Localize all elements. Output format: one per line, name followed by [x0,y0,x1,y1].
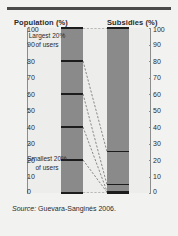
plot-area: 0102030405060708090100 01020304050607080… [27,28,151,193]
right-tick-label: 0 [153,188,157,195]
right-tick-mark [149,94,151,95]
segment-divider [107,192,129,193]
connector-line [83,160,107,192]
right-tick-label: 70 [153,74,161,81]
left-tick-mark [27,28,29,29]
top-rule [7,7,171,10]
source-note: Source: Guevara-Sanginés 2006. [12,205,116,212]
right-tick-mark [149,127,151,128]
right-tick-label: 60 [153,91,161,98]
right-tick-label: 10 [153,173,161,180]
left-tick-mark [27,94,29,95]
source-label: Source: [12,205,36,212]
left-tick-mark [27,177,29,178]
right-tick-mark [149,193,151,194]
left-tick-mark [27,78,29,79]
segment-divider [61,60,83,61]
left-tick-mark [27,127,29,128]
segment-divider [107,151,129,152]
right-tick-mark [149,144,151,145]
connector-line [83,127,107,191]
connector-line [83,94,107,185]
connector-line [83,61,107,152]
right-tick-label: 30 [153,140,161,147]
segment-divider [107,27,129,28]
left-tick-mark [27,193,29,194]
right-tick-label: 20 [153,157,161,164]
right-tick-label: 80 [153,58,161,65]
segment-divider [61,126,83,127]
source-citation: Guevara-Sanginés 2006. [38,205,116,212]
right-tick-mark [149,111,151,112]
left-tick-mark [27,111,29,112]
right-tick-mark [149,160,151,161]
right-tick-label: 90 [153,41,161,48]
right-tick-label: 50 [153,107,161,114]
right-tick-mark [149,28,151,29]
right-tick-label: 100 [153,26,165,33]
segment-divider [61,93,83,94]
figure-container: Population (%) Subsidies (%) 01020304050… [0,0,178,236]
left-tick-mark [27,144,29,145]
annotation-smallest: Smallest 20% of users [26,155,68,172]
right-axis-title: Subsidies (%) [107,18,157,27]
segment-divider [61,27,83,28]
subsidies-bar [107,28,129,193]
left-tick-mark [27,61,29,62]
right-tick-label: 40 [153,124,161,131]
segment-divider [61,192,83,193]
segment-divider [107,184,129,185]
right-tick-mark [149,61,151,62]
right-tick-mark [149,177,151,178]
right-tick-mark [149,78,151,79]
right-tick-mark [149,45,151,46]
annotation-largest: Largest 20% of users [26,32,68,49]
left-axis-title: Population (%) [14,18,68,27]
